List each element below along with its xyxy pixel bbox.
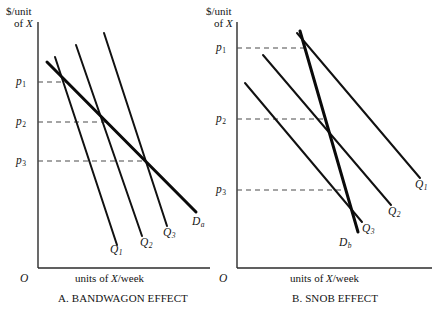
- panel-caption-bandwagon: A. BANDWAGON EFFECT: [58, 293, 188, 305]
- curve-q2-bandwagon: [76, 45, 142, 236]
- panel-snob-dashed-guides: [237, 48, 346, 190]
- panel-caption-snob: B. SNOB EFFECT: [292, 293, 378, 305]
- panel-bandwagon-axes: [38, 22, 210, 268]
- x-axis-label-bandwagon: units of X/week: [75, 273, 144, 285]
- price-label-p2-bandwagon: p2: [16, 115, 26, 127]
- y-axis-label-bandwagon-line2: of X: [6, 18, 33, 30]
- curve-label-q1-bandwagon: Q1: [110, 243, 123, 255]
- x-axis-label-snob: units of X/week: [290, 273, 359, 285]
- y-axis-label-snob: $/unit of X: [206, 6, 233, 30]
- panel-snob-curves: [245, 31, 420, 232]
- curve-q1-bandwagon: [55, 57, 117, 245]
- curve-label-db-snob: Db: [339, 236, 352, 248]
- origin-label-bandwagon: O: [20, 272, 28, 284]
- figure-root: $/unit of X p1 p2 p3 Q1 Q2 Q3 Da O units…: [0, 0, 440, 312]
- price-label-p1-bandwagon: p1: [16, 75, 26, 87]
- curve-q2-snob: [263, 55, 391, 205]
- curve-label-q3-snob: Q3: [362, 222, 375, 234]
- curve-q1-snob: [297, 33, 420, 178]
- curve-label-da-bandwagon: Da: [192, 215, 205, 227]
- price-label-p2-snob: p2: [216, 112, 226, 124]
- curve-label-q2-bandwagon: Q2: [140, 236, 153, 248]
- curve-label-q3-bandwagon: Q3: [163, 226, 176, 238]
- price-label-p3-bandwagon: p3: [16, 154, 26, 166]
- curve-label-q1-snob: Q1: [415, 178, 428, 190]
- y-axis-label-snob-line1: $/unit: [206, 5, 232, 17]
- y-axis-label-bandwagon: $/unit of X: [6, 6, 33, 30]
- curve-label-q2-snob: Q2: [388, 205, 401, 217]
- curve-db-snob: [300, 31, 358, 232]
- panel-bandwagon-curves: [47, 33, 196, 245]
- price-label-p1-snob: p1: [216, 41, 226, 53]
- origin-label-snob: O: [219, 272, 227, 284]
- y-axis-label-snob-line2: of X: [206, 18, 233, 30]
- y-axis-label-bandwagon-line1: $/unit: [6, 5, 32, 17]
- price-label-p3-snob: p3: [216, 183, 226, 195]
